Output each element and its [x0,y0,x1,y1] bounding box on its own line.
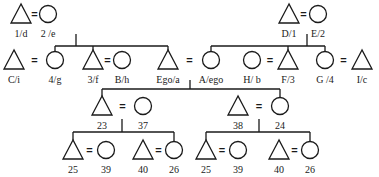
marriage-symbol: = [86,144,92,156]
person-female: 37 [135,98,152,132]
person-label: E/2 [311,28,325,39]
female-circle-icon [47,52,64,69]
person-male: 25 [63,140,83,175]
female-circle-icon [302,142,319,159]
marriage-symbol: = [155,144,161,156]
person-label: 26 [169,164,179,175]
person-label: 37 [138,120,148,131]
person-label: 23 [97,120,107,131]
male-triangle-icon [278,50,298,69]
person-label: 4/g [49,74,62,85]
marriage-symbol: = [219,144,225,156]
kinship-diagram: 1/d2 /eD/1E/2C/i4/g3/fB/hEgo/aA/egoH/ bF… [0,0,379,177]
person-label: I/c [357,74,368,85]
person-female: 4/g [47,52,64,86]
person-male: I/c [352,50,372,85]
person-male: 25 [196,140,216,175]
person-male: 1/d [11,4,31,39]
person-label: 25 [68,164,78,175]
marriage-symbol: = [300,8,306,20]
male-triangle-icon [196,140,216,159]
person-female: 26 [166,142,183,176]
person-female: H/ b [243,52,261,86]
person-female: A/ego [199,52,223,86]
female-circle-icon [203,52,220,69]
person-label: Ego/a [156,74,180,85]
male-triangle-icon [92,96,112,115]
male-triangle-icon [4,50,24,69]
female-circle-icon [135,98,152,115]
person-label: 1/d [15,28,28,39]
female-circle-icon [272,98,289,115]
person-label: F/3 [281,74,294,85]
person-label: D/1 [282,28,297,39]
person-label: 3/f [87,74,99,85]
person-label: 2 /e [41,28,56,39]
female-circle-icon [317,52,334,69]
marriage-symbol: = [31,8,37,20]
male-triangle-icon [352,50,372,69]
male-triangle-icon [133,140,153,159]
person-female: 2 /e [40,6,57,40]
person-label: G /4 [316,74,334,85]
male-triangle-icon [158,50,178,69]
marriage-symbol: = [291,144,297,156]
person-label: H/ b [243,74,261,85]
marriage-symbol: = [104,54,110,66]
female-circle-icon [310,6,327,23]
marriage-symbols: ============= [31,8,346,156]
male-triangle-icon [63,140,83,159]
person-label: A/ego [199,74,223,85]
male-triangle-icon [279,4,299,23]
person-label: 38 [233,120,243,131]
person-male: 38 [228,96,248,131]
person-male: 40 [133,140,153,175]
person-male: D/1 [279,4,299,39]
person-label: 25 [201,164,211,175]
male-triangle-icon [83,50,103,69]
marriage-symbol: = [267,54,273,66]
female-circle-icon [40,6,57,23]
person-label: B/h [115,74,129,85]
person-label: 24 [275,120,285,131]
person-label: 39 [101,164,111,175]
person-label: 26 [305,164,315,175]
female-circle-icon [230,142,247,159]
person-female: 26 [302,142,319,176]
person-male: Ego/a [156,50,180,85]
marriage-symbol: = [31,54,37,66]
person-female: 39 [230,142,247,176]
person-female: 24 [272,98,289,132]
marriage-symbol: = [119,100,125,112]
person-male: F/3 [278,50,298,85]
person-female: G /4 [316,52,334,86]
person-male: 40 [269,140,289,175]
female-circle-icon [114,52,131,69]
person-label: C/i [8,74,20,85]
male-triangle-icon [269,140,289,159]
marriage-symbol: = [340,54,346,66]
male-triangle-icon [11,4,31,23]
marriage-symbol: = [256,100,262,112]
person-label: 39 [233,164,243,175]
person-female: E/2 [310,6,327,40]
marriage-symbol: = [186,54,192,66]
person-male: C/i [4,50,24,85]
person-female: 39 [98,142,115,176]
person-label: 40 [274,164,284,175]
female-circle-icon [244,52,261,69]
person-male: 3/f [83,50,103,85]
person-male: 23 [92,96,112,131]
male-triangle-icon [228,96,248,115]
person-female: B/h [114,52,131,86]
person-label: 40 [138,164,148,175]
female-circle-icon [98,142,115,159]
female-circle-icon [166,142,183,159]
kinship-diagram-svg: 1/d2 /eD/1E/2C/i4/g3/fB/hEgo/aA/egoH/ bF… [0,0,379,177]
